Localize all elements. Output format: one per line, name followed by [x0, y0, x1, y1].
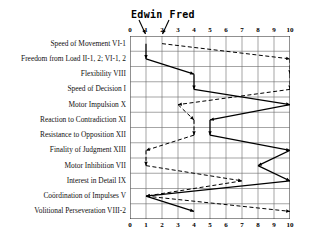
- series-fred-dashed: [144, 44, 290, 213]
- axis-tick: 10: [287, 26, 294, 34]
- row-label: Flexibility VIII: [0, 70, 126, 78]
- data-point-arrow: [192, 86, 195, 90]
- data-point-arrow: [190, 116, 194, 120]
- row-label: Reaction to Contradiction XI: [0, 116, 126, 124]
- data-point-arrow: [190, 71, 194, 74]
- axis-tick: 2: [160, 26, 164, 34]
- data-point-arrow: [286, 57, 290, 60]
- trait-profile-chart: EdwinFred 012345678910 Speed of Movement…: [0, 0, 310, 251]
- data-point-arrow: [144, 55, 147, 59]
- series-label-edwin: Edwin: [131, 9, 163, 20]
- axis-tick: 4: [192, 221, 196, 229]
- axis-tick: 8: [256, 221, 260, 229]
- series-label-fred: Fred: [170, 9, 195, 20]
- axis-bottom: 012345678910: [130, 221, 290, 231]
- row-label-list: Speed of Movement VI-1Freedom from Load …: [0, 36, 128, 219]
- axis-tick: 5: [208, 221, 212, 229]
- row-label: Resistance to Opposition XII: [0, 131, 126, 139]
- row-label: Motor Impulsion X: [0, 101, 126, 109]
- axis-tick: 1: [144, 26, 148, 34]
- row-label: Coördination of Impulses V: [0, 192, 126, 200]
- row-label: Volitional Perseveration VIII-2: [0, 207, 126, 215]
- axis-tick: 1: [144, 221, 148, 229]
- axis-tick: 2: [160, 221, 164, 229]
- row-label: Speed of Decision I: [0, 85, 126, 93]
- axis-tick: 0: [128, 26, 132, 34]
- chart-canvas: [130, 36, 290, 219]
- axis-tick: 9: [272, 26, 276, 34]
- axis-tick: 6: [224, 221, 228, 229]
- data-point-arrow: [192, 131, 195, 135]
- axis-tick: 7: [240, 221, 244, 229]
- data-point-arrow: [144, 162, 147, 166]
- row-label: Finality of Judgment XIII: [0, 146, 126, 154]
- axis-tick: 6: [224, 26, 228, 34]
- series-callout-title: EdwinFred: [131, 9, 195, 20]
- axis-tick: 5: [208, 26, 212, 34]
- data-point-arrow: [146, 148, 150, 151]
- axis-tick: 9: [272, 221, 276, 229]
- axis-top: 012345678910: [130, 26, 290, 36]
- axis-tick: 8: [256, 26, 260, 34]
- row-label: Interest in Detail IX: [0, 177, 126, 185]
- axis-tick: 4: [192, 26, 196, 34]
- row-label: Motor Inhibition VII: [0, 162, 126, 170]
- axis-tick: 0: [128, 221, 132, 229]
- data-point-arrow: [208, 131, 211, 135]
- row-label: Freedom from Load II-1, 2; VI-1, 2: [0, 55, 126, 63]
- axis-tick: 3: [176, 221, 180, 229]
- axis-tick: 7: [240, 26, 244, 34]
- data-point-arrow: [190, 209, 194, 212]
- axis-tick: 10: [287, 221, 294, 229]
- row-label: Speed of Movement VI-1: [0, 40, 126, 48]
- axis-tick: 3: [176, 26, 180, 34]
- plot-area: [130, 36, 290, 219]
